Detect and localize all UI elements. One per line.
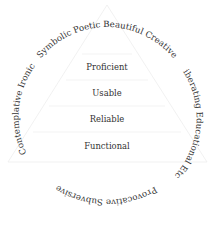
ring-bottom-path: Provocative Subversive — [53, 183, 158, 207]
pyramid-diagram: Proficient Usable Reliable Functional Sy… — [0, 0, 215, 225]
level-proficient: Proficient — [86, 62, 128, 72]
level-usable: Usable — [92, 88, 121, 98]
level-functional: Functional — [84, 141, 130, 151]
level-reliable: Reliable — [90, 114, 125, 124]
ring-text-left: Contemplative Ironic — [10, 61, 37, 156]
ring-text-bottom: Provocative Subversive — [53, 183, 158, 207]
diagram-canvas: Proficient Usable Reliable Functional Sy… — [0, 0, 215, 225]
ring-left-path: Contemplative Ironic — [10, 61, 37, 156]
